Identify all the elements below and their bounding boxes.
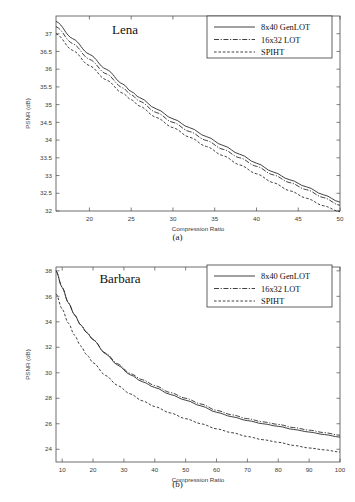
y-tick-label: 36.5 — [40, 48, 53, 55]
x-tick-label: 50 — [337, 215, 344, 222]
y-tick-label: 35.5 — [40, 83, 53, 90]
legend-label-1: 8x40 GenLOT — [261, 272, 310, 281]
x-tick-label: 90 — [306, 466, 313, 473]
chart-a-lena: 202530354045503232.53333.53434.53535.536… — [0, 0, 355, 251]
x-tick-label: 20 — [86, 215, 93, 222]
y-tick-label: 33.5 — [40, 154, 53, 161]
caption-b: (b) — [0, 479, 355, 489]
y-tick-label: 32 — [45, 207, 52, 214]
x-tick-label: 20 — [90, 466, 97, 473]
y-tick-label: 36 — [45, 65, 52, 72]
y-axis-label: PSNR (dB) — [24, 98, 31, 129]
x-tick-label: 70 — [244, 466, 251, 473]
y-tick-label: 30 — [45, 369, 52, 376]
x-tick-label: 45 — [295, 215, 302, 222]
x-tick-label: 30 — [169, 215, 176, 222]
legend-label-3: SPIHT — [261, 48, 284, 57]
y-axis-label: PSNR (dB) — [24, 349, 31, 380]
plot-title: Lena — [112, 22, 138, 37]
x-tick-label: 40 — [253, 215, 260, 222]
y-tick-label: 32.5 — [40, 189, 53, 196]
y-tick-label: 37 — [45, 30, 52, 37]
legend-label-1: 8x40 GenLOT — [261, 23, 310, 32]
x-tick-label: 60 — [213, 466, 220, 473]
caption-a: (a) — [0, 232, 355, 242]
chart-a-canvas: 202530354045503232.53333.53434.53535.536… — [0, 0, 355, 251]
y-tick-label: 28 — [45, 394, 52, 401]
x-tick-label: 80 — [275, 466, 282, 473]
x-tick-label: 35 — [211, 215, 218, 222]
y-tick-label: 35 — [45, 101, 52, 108]
y-tick-label: 34.5 — [40, 119, 53, 126]
y-tick-label: 34 — [45, 136, 52, 143]
x-axis-label: Compression Ratio — [172, 225, 225, 232]
x-tick-label: 40 — [151, 466, 158, 473]
x-tick-label: 30 — [120, 466, 127, 473]
legend-label-2: 16x32 LOT — [261, 285, 300, 294]
legend: 8x40 GenLOT16x32 LOTSPIHT — [207, 16, 332, 58]
figure-page: 202530354045503232.53333.53434.53535.536… — [0, 0, 355, 502]
x-tick-label: 50 — [182, 466, 189, 473]
y-tick-label: 33 — [45, 172, 52, 179]
legend: 8x40 GenLOT16x32 LOTSPIHT — [207, 265, 332, 307]
chart-b-barbara: 1020304050607080901002426283032343638Com… — [0, 251, 355, 502]
y-tick-label: 32 — [45, 343, 52, 350]
y-tick-label: 36 — [45, 293, 52, 300]
y-tick-label: 24 — [45, 445, 52, 452]
x-tick-label: 100 — [335, 466, 346, 473]
x-tick-label: 25 — [128, 215, 135, 222]
y-tick-label: 34 — [45, 318, 52, 325]
legend-label-3: SPIHT — [261, 297, 284, 306]
plot-title: Barbara — [99, 271, 140, 286]
legend-label-2: 16x32 LOT — [261, 36, 300, 45]
series-line-3 — [56, 34, 340, 212]
chart-b-canvas: 1020304050607080901002426283032343638Com… — [0, 251, 355, 502]
x-tick-label: 10 — [59, 466, 66, 473]
y-tick-label: 26 — [45, 420, 52, 427]
y-tick-label: 38 — [45, 267, 52, 274]
